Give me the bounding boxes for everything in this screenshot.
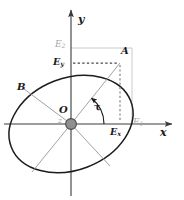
- ey-label: Ey: [53, 57, 64, 68]
- origin-label: O: [59, 105, 68, 115]
- e1-base: E: [133, 117, 140, 127]
- tau-angle-label: τ: [94, 102, 101, 112]
- e2-base: E: [55, 39, 62, 49]
- x-axis-label: x: [160, 127, 167, 138]
- point-b-label: B: [17, 82, 25, 92]
- spoke-to-a: [71, 63, 120, 124]
- z-axis-label: z: [58, 117, 62, 125]
- ey-subscript: y: [60, 60, 64, 68]
- orbit-diagram-svg: [0, 0, 184, 200]
- point-a-label: A: [121, 46, 129, 56]
- z-axis-hub: [66, 119, 77, 130]
- ex-label: Ex: [110, 127, 121, 138]
- e1-label: E1: [133, 118, 143, 127]
- y-axis-label: y: [78, 14, 84, 25]
- e1-subscript: 1: [140, 120, 144, 127]
- ex-subscript: x: [117, 130, 121, 138]
- e2-label: E2: [55, 40, 65, 49]
- figure-canvas: y x A B O z τ E1 E2 Ex Ey: [0, 0, 184, 200]
- spoke-lower-left: [32, 124, 71, 172]
- e2-subscript: 2: [62, 42, 66, 49]
- spoke-lower-right: [71, 124, 110, 166]
